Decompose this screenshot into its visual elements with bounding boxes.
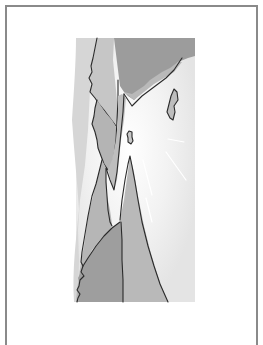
canyon-illustration xyxy=(0,0,263,332)
